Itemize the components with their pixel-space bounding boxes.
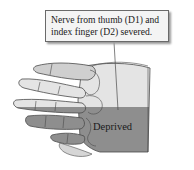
hand-diagram: Nerve from thumb (D1) and index finger (… [0, 0, 194, 170]
callout-box: Nerve from thumb (D1) and index finger (… [45, 10, 169, 42]
callout-line-1: Nerve from thumb (D1) and [51, 14, 168, 26]
callout-line-2: index finger (D2) severed. [51, 26, 168, 38]
deprived-region-label: Deprived [93, 121, 132, 132]
